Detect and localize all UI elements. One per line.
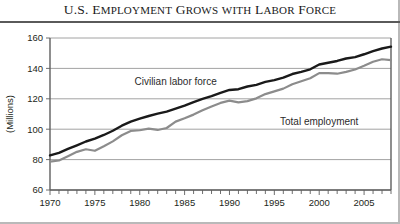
x-tick-label: 1975 (84, 197, 105, 208)
x-axis-ticks (50, 190, 391, 195)
series-label: Total employment (280, 116, 359, 127)
y-tick-label: 140 (27, 63, 43, 74)
x-tick-label: 1995 (264, 197, 285, 208)
y-tick-label: 80 (32, 154, 43, 165)
x-tick-label: 1970 (39, 197, 60, 208)
line-chart: 6080100120140160 19701975198019851990199… (0, 22, 400, 222)
y-tick-label: 120 (27, 93, 43, 104)
y-tick-label: 60 (32, 184, 43, 195)
title-text: U.S. EMPLOYMENT GROWS WITH LABOR FORCE (64, 2, 336, 17)
chart-figure: U.S. EMPLOYMENT GROWS WITH LABOR FORCE 6… (0, 0, 400, 224)
x-tick-label: 1985 (174, 197, 195, 208)
page-title: U.S. EMPLOYMENT GROWS WITH LABOR FORCE (0, 2, 400, 18)
y-tick-label: 100 (27, 124, 43, 135)
x-tick-label: 1990 (219, 197, 240, 208)
x-tick-label: 2000 (309, 197, 330, 208)
data-series (50, 47, 391, 162)
y-tick-label: 160 (27, 32, 43, 43)
x-tick-label: 1980 (129, 197, 150, 208)
series-line (50, 47, 391, 156)
x-axis-tick-labels: 19701975198019851990199520002005 (39, 197, 374, 208)
series-line (50, 59, 391, 161)
y-axis-tick-labels: 6080100120140160 (27, 32, 43, 195)
x-tick-label: 2005 (354, 197, 375, 208)
series-label: Civilian labor force (134, 76, 217, 87)
y-axis-title: (Millions) (4, 95, 15, 133)
